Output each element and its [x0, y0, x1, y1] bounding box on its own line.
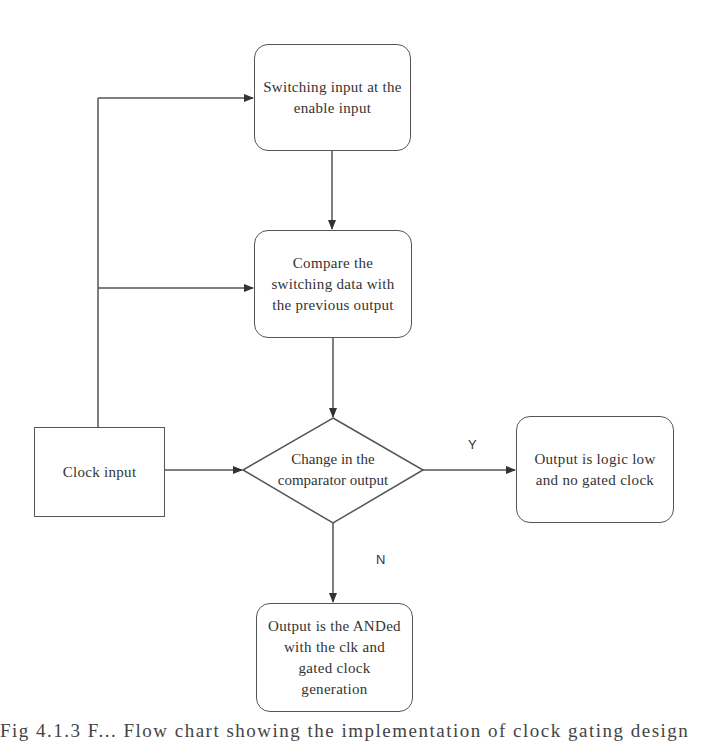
node-output-low-label: Output is logic low and no gated clock: [517, 449, 673, 491]
node-clock-input: Clock input: [34, 427, 165, 517]
node-output-anded: Output is the ANDed with the clk and gat…: [256, 603, 413, 712]
node-output-low: Output is logic low and no gated clock: [516, 416, 674, 523]
edge-label-no: N: [376, 552, 385, 567]
node-compare: Compare the switching data with the prev…: [254, 230, 412, 338]
node-output-anded-label: Output is the ANDed with the clk and gat…: [259, 616, 410, 700]
edge-label-yes: Y: [468, 437, 477, 452]
node-compare-label: Compare the switching data with the prev…: [255, 253, 411, 316]
node-switching-input: Switching input at the enable input: [254, 44, 411, 151]
node-switching-input-label: Switching input at the enable input: [255, 77, 410, 119]
node-decision-label: Change in the comparator output: [263, 449, 403, 491]
node-clock-input-label: Clock input: [55, 462, 145, 483]
decision-text: Change in the comparator output: [278, 451, 388, 488]
figure-caption: Fig 4.1.3 F... Flow chart showing the im…: [0, 720, 707, 742]
